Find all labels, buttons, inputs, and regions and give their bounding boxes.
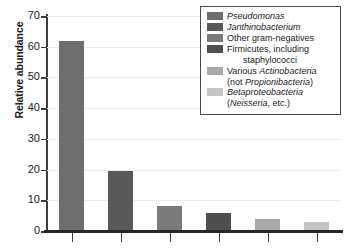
legend-swatch [207, 34, 223, 42]
x-axis-line [44, 230, 343, 233]
legend-label: Betaproteobacteria [227, 87, 303, 98]
legend-item: Other gram-negatives [205, 33, 337, 44]
chart-figure: Relative abundance 010203040506070 Pseud… [0, 0, 348, 249]
legend-label-continuation: (Neisseria, etc.) [205, 98, 337, 109]
y-tick-label: 70 [4, 9, 40, 21]
x-tick-mark [268, 233, 270, 242]
legend-label: Various Actinobacteria [227, 66, 316, 77]
y-axis-ticks: 010203040506070 [0, 0, 40, 249]
legend-swatch [207, 12, 223, 20]
legend-label: Other gram-negatives [227, 33, 314, 44]
legend-item: Pseudomonas [205, 11, 337, 22]
y-tick-label: 40 [4, 101, 40, 113]
x-tick-mark [121, 233, 123, 242]
y-tick-label: 0 [4, 224, 40, 236]
y-tick-label: 10 [4, 193, 40, 205]
legend-item: Firmicutes, including [205, 44, 337, 55]
y-tick-label: 60 [4, 40, 40, 52]
legend-item: Janthinobacterium [205, 22, 337, 33]
legend-swatch [207, 88, 223, 96]
legend-label: Firmicutes, including [227, 44, 309, 55]
legend-label-continuation: staphylococci [205, 55, 337, 66]
gridline [47, 200, 341, 201]
y-tick-label: 50 [4, 70, 40, 82]
chart-legend: PseudomonasJanthinobacteriumOther gram-n… [200, 6, 341, 115]
x-tick-mark [72, 233, 74, 242]
legend-label: Janthinobacterium [227, 22, 301, 33]
x-tick-mark [170, 233, 172, 242]
bar [157, 206, 182, 231]
legend-item: Betaproteobacteria [205, 87, 337, 98]
bar [108, 171, 133, 231]
x-tick-mark [317, 233, 319, 242]
x-tick-mark [219, 233, 221, 242]
legend-label: Pseudomonas [227, 11, 285, 22]
y-tick-label: 30 [4, 132, 40, 144]
legend-swatch [207, 67, 223, 75]
legend-item: Various Actinobacteria [205, 66, 337, 77]
gridline [47, 139, 341, 140]
bar [206, 213, 231, 231]
gridline [47, 170, 341, 171]
bar [59, 41, 84, 231]
legend-swatch [207, 23, 223, 31]
legend-label-continuation: (not Propionibacteria) [205, 77, 337, 88]
legend-swatch [207, 45, 223, 53]
y-tick-label: 20 [4, 163, 40, 175]
